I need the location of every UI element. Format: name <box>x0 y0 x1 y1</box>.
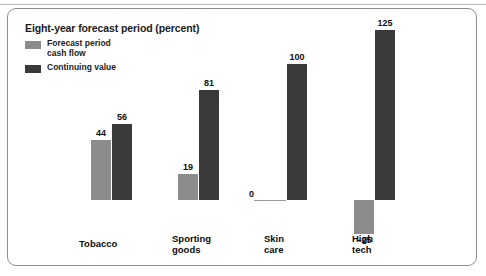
chart-title: Eight-year forecast period (percent) <box>25 22 199 34</box>
legend-item-continuing-value: Continuing value <box>25 63 195 73</box>
top-cut-rule <box>0 4 486 5</box>
legend-label-continuing-value: Continuing value <box>47 63 116 73</box>
chart-legend: Forecast period cash flow Continuing val… <box>25 39 195 78</box>
legend-swatch-forecast-period-cash-flow <box>25 41 41 49</box>
chart-frame: Eight-year forecast period (percent) For… <box>7 8 477 266</box>
legend-label-forecast-period-cash-flow: Forecast period cash flow <box>47 39 111 58</box>
legend-item-forecast-period-cash-flow: Forecast period cash flow <box>25 39 195 58</box>
legend-swatch-continuing-value <box>25 65 41 73</box>
